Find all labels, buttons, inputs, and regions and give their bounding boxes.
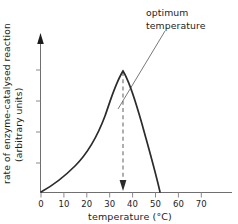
reaction-rate-curve — [41, 71, 160, 192]
annotation-line-1: optimum — [146, 7, 234, 20]
x-tick-label-50: 50 — [150, 199, 161, 209]
annotation-leader-line — [118, 31, 165, 109]
x-tick-label-30: 30 — [104, 199, 115, 209]
y-axis-title-line-2: (arbitrary units) — [13, 88, 24, 162]
y-axis-title-line-1: rate of enzyme-catalysed reaction — [1, 23, 12, 184]
x-tick-label-0: 0 — [38, 199, 44, 209]
optimum-temperature-arrowhead-icon — [120, 180, 127, 191]
x-axis-title: temperature (°C) — [0, 211, 238, 222]
chart-plot-area — [0, 0, 238, 224]
x-tick-label-70: 70 — [196, 199, 207, 209]
enzyme-rate-temperature-chart: 0 10 20 30 40 50 60 70 temperature (°C) … — [0, 0, 238, 224]
x-tick-label-40: 40 — [127, 199, 138, 209]
x-tick-label-10: 10 — [58, 199, 69, 209]
y-axis-title: rate of enzyme-catalysed reaction (arbit… — [0, 0, 34, 190]
x-tick-label-60: 60 — [173, 199, 184, 209]
annotation-line-2: temperature — [146, 20, 234, 33]
x-tick-label-20: 20 — [81, 199, 92, 209]
optimum-temperature-annotation: optimum temperature — [146, 7, 234, 32]
y-axis-arrowhead — [37, 33, 44, 44]
